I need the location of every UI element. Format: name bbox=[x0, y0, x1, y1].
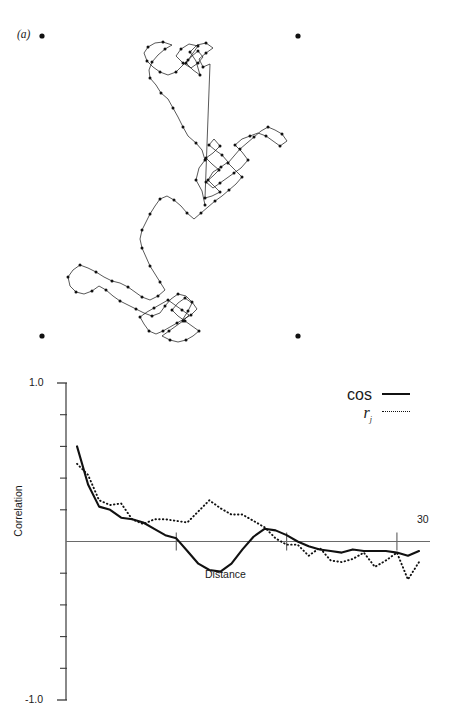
walk-vertex-marker bbox=[214, 200, 217, 203]
walk-vertex-marker bbox=[147, 46, 150, 49]
corner-reference-dot bbox=[295, 333, 300, 338]
series-line-cos bbox=[77, 446, 419, 571]
corner-reference-dot bbox=[39, 33, 44, 38]
walk-vertex-marker bbox=[175, 71, 178, 74]
walk-vertex-marker bbox=[135, 308, 138, 311]
walk-vertex-marker bbox=[141, 296, 144, 299]
walk-vertex-marker bbox=[219, 191, 222, 194]
walk-vertex-marker bbox=[227, 162, 230, 165]
walk-vertex-marker bbox=[239, 148, 242, 151]
walk-vertex-marker bbox=[182, 126, 185, 129]
walk-vertex-marker bbox=[146, 60, 149, 63]
walk-vertex-marker bbox=[105, 289, 108, 292]
walk-vertex-marker bbox=[184, 297, 187, 300]
walk-vertex-marker bbox=[167, 299, 170, 302]
walk-vertex-marker bbox=[127, 286, 130, 289]
walk-vertex-marker bbox=[205, 42, 208, 45]
walk-vertex-marker bbox=[184, 320, 187, 323]
walk-vertex-marker bbox=[218, 169, 221, 172]
walk-vertex-marker bbox=[195, 179, 198, 182]
walk-vertex-marker bbox=[162, 41, 165, 44]
panel-b-correlation-chart: (b) 1.0 -1.0 30 Correlation Distance cos… bbox=[0, 365, 453, 713]
walk-vertex-marker bbox=[189, 51, 192, 54]
walk-vertex-marker bbox=[221, 154, 224, 157]
walk-vertex-marker bbox=[151, 315, 154, 318]
walk-vertex-marker bbox=[187, 59, 190, 62]
corner-reference-dot bbox=[295, 33, 300, 38]
walk-vertex-marker bbox=[205, 52, 208, 55]
walk-vertex-marker bbox=[160, 92, 163, 95]
walk-vertex-marker bbox=[204, 197, 207, 200]
walk-vertex-marker bbox=[265, 135, 268, 138]
walk-vertex-marker bbox=[205, 181, 208, 184]
walk-vertex-marker bbox=[219, 145, 222, 148]
walk-vertex-marker bbox=[171, 309, 174, 312]
walk-vertex-marker bbox=[267, 126, 270, 129]
walk-vertex-marker bbox=[149, 77, 152, 80]
walk-vertex-marker bbox=[249, 135, 252, 138]
walk-vertex-marker bbox=[197, 62, 200, 65]
walk-vertex-marker bbox=[204, 204, 207, 207]
walk-vertex-marker bbox=[182, 62, 185, 65]
panel-a-random-walk: (a) bbox=[0, 0, 453, 365]
walk-vertex-marker bbox=[173, 199, 176, 202]
walk-vertex-marker bbox=[139, 316, 142, 319]
walk-vertex-marker bbox=[198, 330, 201, 333]
walk-vertex-marker bbox=[233, 172, 236, 175]
walk-vertex-marker bbox=[176, 322, 179, 325]
legend-label-cos: cos bbox=[326, 386, 372, 404]
walk-vertex-marker bbox=[234, 144, 237, 147]
walk-vertex-marker bbox=[95, 271, 98, 274]
walk-vertex-marker bbox=[200, 212, 203, 215]
walk-vertex-marker bbox=[241, 176, 244, 179]
y-axis-min-label: -1.0 bbox=[25, 693, 43, 705]
walk-vertex-marker bbox=[228, 189, 231, 192]
x-axis-30-label: 30 bbox=[417, 513, 429, 525]
walk-vertex-marker bbox=[91, 290, 94, 293]
walk-path bbox=[68, 42, 287, 342]
walk-vertex-marker bbox=[279, 145, 282, 148]
walk-vertex-marker bbox=[79, 264, 82, 267]
x-axis-title: Distance bbox=[205, 568, 246, 580]
walk-vertex-marker bbox=[186, 212, 189, 215]
walk-vertex-marker bbox=[180, 48, 183, 51]
walk-vertex-marker bbox=[199, 74, 202, 77]
walk-vertex-marker bbox=[164, 305, 167, 308]
walk-vertex-marker bbox=[148, 330, 151, 333]
walk-vertex-marker bbox=[153, 307, 156, 310]
corner-reference-dot bbox=[39, 333, 44, 338]
walk-vertex-marker bbox=[67, 276, 70, 279]
walk-vertex-marker bbox=[208, 144, 211, 147]
walk-vertex-marker bbox=[220, 166, 223, 169]
walk-vertex-marker bbox=[205, 157, 208, 160]
walk-vertex-marker bbox=[141, 247, 144, 250]
walk-vertex-marker bbox=[141, 229, 144, 232]
walk-vertex-marker bbox=[190, 314, 193, 317]
walk-vertex-marker bbox=[185, 339, 188, 342]
walk-vertex-marker bbox=[159, 198, 162, 201]
walk-vertex-marker bbox=[202, 66, 205, 69]
walk-vertex-marker bbox=[247, 159, 250, 162]
walk-vertex-marker bbox=[159, 281, 162, 284]
walk-vertex-marker bbox=[168, 330, 171, 333]
walk-vertex-marker bbox=[187, 310, 190, 313]
figure-container: (a) (b) 1.0 -1.0 30 Correlation Distance… bbox=[0, 0, 453, 713]
walk-vertex-marker bbox=[172, 107, 175, 110]
correlation-chart bbox=[0, 365, 453, 713]
walk-vertex-marker bbox=[181, 309, 184, 312]
walk-vertex-marker bbox=[197, 50, 200, 53]
walk-vertex-marker bbox=[195, 142, 198, 145]
legend-swatch-rj-dotted-line bbox=[382, 411, 410, 412]
random-walk-plot bbox=[0, 0, 453, 365]
walk-vertex-marker bbox=[119, 300, 122, 303]
y-axis-title: Correlation bbox=[12, 466, 24, 556]
walk-vertex-marker bbox=[281, 133, 284, 136]
walk-vertex-marker bbox=[75, 291, 78, 294]
series-line-rj bbox=[77, 464, 419, 580]
walk-vertex-marker bbox=[157, 295, 160, 298]
walk-vertex-marker bbox=[219, 182, 222, 185]
walk-vertex-marker bbox=[149, 265, 152, 268]
walk-vertex-marker bbox=[177, 293, 180, 296]
walk-vertex-marker bbox=[149, 213, 152, 216]
legend-swatch-cos-solid-line bbox=[382, 393, 410, 395]
